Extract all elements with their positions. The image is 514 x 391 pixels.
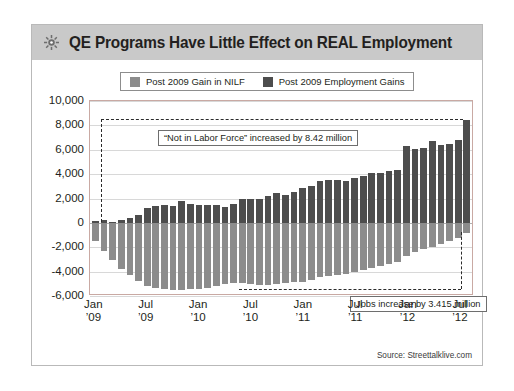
bar-nilf [351, 178, 358, 223]
bar-nilf [386, 171, 393, 223]
bar-nilf [394, 170, 401, 222]
bar-employment [101, 223, 108, 251]
bar-nilf [438, 145, 445, 223]
bar-nilf [239, 199, 246, 223]
bar-employment [109, 223, 116, 261]
bar-nilf [204, 205, 211, 222]
bar-nilf [144, 208, 151, 222]
bar-group [108, 101, 117, 294]
bar-group [463, 101, 472, 294]
bar-nilf [265, 196, 272, 223]
bar-employment [178, 223, 185, 290]
bar-nilf [343, 181, 350, 223]
y-axis-tick: 2,000 [55, 192, 84, 204]
bar-employment [394, 223, 401, 262]
chart-title-bar: QE Programs Have Little Effect on REAL E… [32, 25, 482, 60]
bar-employment [170, 223, 177, 290]
bar-employment [247, 223, 254, 284]
gear-icon [44, 35, 59, 50]
y-axis-tick: 0 [78, 216, 84, 228]
bar-employment [135, 223, 142, 281]
bar-employment [222, 223, 229, 284]
bar-employment [446, 223, 453, 242]
bar-nilf [282, 195, 289, 223]
bar-employment [127, 223, 134, 275]
bar-employment [196, 223, 203, 289]
bar-nilf [230, 204, 237, 223]
bar-employment [325, 223, 332, 276]
bar-nilf [299, 188, 306, 223]
y-axis-tick: 6,000 [55, 143, 84, 155]
bar-employment [239, 223, 246, 283]
bar-employment [368, 223, 375, 268]
bar-group [411, 101, 420, 294]
bar-employment [360, 223, 367, 270]
bar-group [437, 101, 446, 294]
bar-nilf [213, 205, 220, 222]
plot-area: “Not in Labor Force” increased by 8.42 m… [89, 100, 473, 295]
x-axis: Jan’09Jul’09Jan’10Jul’10Jan’11Jul’11Jan’… [89, 298, 473, 340]
bar-nilf [187, 204, 194, 223]
bar-group [419, 101, 428, 294]
bar-employment [420, 223, 427, 250]
bar-nilf [170, 206, 177, 223]
y-axis-tick: -6,000 [51, 289, 84, 301]
legend-label-employment: Post 2009 Employment Gains [279, 76, 405, 87]
legend-swatch-nilf [130, 77, 140, 87]
bar-employment [299, 223, 306, 282]
bar-employment [187, 223, 194, 289]
bar-group [359, 101, 368, 294]
bar-nilf [247, 199, 254, 223]
x-axis-tick: Jul’12 [452, 298, 467, 324]
bar-employment [92, 223, 99, 241]
bar-nilf [152, 206, 159, 223]
bar-employment [118, 223, 125, 269]
bar-employment [152, 223, 159, 288]
bar-employment [438, 223, 445, 244]
jobs-end-dashed-line [461, 232, 462, 289]
y-axis: 10,0008,0006,0004,0002,0000-2,000-4,000-… [32, 100, 84, 295]
bar-group [143, 101, 152, 294]
bar-group [393, 101, 402, 294]
chart-figure: QE Programs Have Little Effect on REAL E… [31, 24, 483, 366]
bar-employment [317, 223, 324, 278]
y-axis-tick: -2,000 [51, 240, 84, 252]
bar-nilf [178, 201, 185, 223]
bar-nilf [135, 215, 142, 223]
chart-legend: Post 2009 Gain in NILF Post 2009 Employm… [120, 72, 414, 91]
nilf-start-dashed-line [101, 119, 102, 222]
bar-employment [144, 223, 151, 286]
annotation-nilf: “Not in Labor Force” increased by 8.42 m… [158, 130, 358, 146]
bar-employment [343, 223, 350, 274]
bar-employment [334, 223, 341, 275]
bar-group [368, 101, 377, 294]
bar-nilf [420, 148, 427, 223]
bar-employment [463, 223, 470, 233]
bar-group [91, 101, 100, 294]
bar-group [385, 101, 394, 294]
bar-nilf [317, 181, 324, 222]
page-title: QE Programs Have Little Effect on REAL E… [69, 33, 452, 52]
bar-group [428, 101, 437, 294]
y-axis-tick: 10,000 [49, 94, 84, 106]
bar-nilf [308, 186, 315, 223]
legend-item-nilf: Post 2009 Gain in NILF [130, 76, 245, 87]
x-axis-tick: Jan’10 [189, 298, 208, 324]
bar-nilf [161, 205, 168, 223]
bar-nilf [412, 149, 419, 223]
bar-nilf [463, 120, 470, 223]
bar-nilf [325, 180, 332, 223]
y-axis-tick: 4,000 [55, 167, 84, 179]
bar-group [134, 101, 143, 294]
legend-label-nilf: Post 2009 Gain in NILF [146, 76, 245, 87]
bar-group [117, 101, 126, 294]
bar-nilf [429, 141, 436, 223]
bar-employment [412, 223, 419, 252]
bar-employment [256, 223, 263, 285]
bar-nilf [360, 176, 367, 223]
bar-employment [213, 223, 220, 286]
bar-group [445, 101, 454, 294]
bar-nilf [377, 173, 384, 223]
bar-employment [403, 223, 410, 256]
x-axis-tick: Jul’10 [243, 298, 258, 324]
